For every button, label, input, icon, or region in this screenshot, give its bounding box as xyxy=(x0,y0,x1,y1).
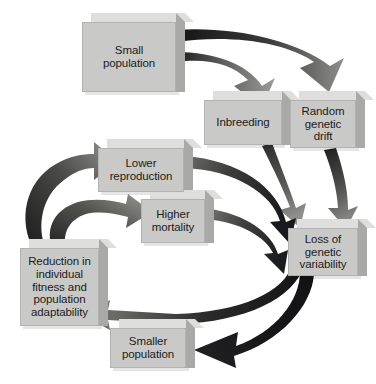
label-line: variability xyxy=(298,258,349,271)
label-line: reproduction xyxy=(108,170,175,183)
label-line: drift xyxy=(300,130,347,143)
label-line: genetic xyxy=(300,118,347,131)
node-loss-of-genetic-variability[interactable]: Loss of genetic variability xyxy=(288,228,358,276)
label-line: Lower xyxy=(108,157,175,170)
node-label-small-population: Small population xyxy=(82,22,176,92)
label-line: adaptability xyxy=(26,306,93,319)
node-higher-mortality[interactable]: Higher mortality xyxy=(141,199,205,243)
label-line: mortality xyxy=(150,221,197,234)
box-side-face xyxy=(184,139,193,192)
node-smaller-population[interactable]: Smaller population xyxy=(110,328,186,368)
box-side-face xyxy=(99,239,108,326)
node-label-random-genetic-drift: Random genetic drift xyxy=(290,100,356,148)
label-line: fitness and xyxy=(26,281,93,294)
node-label-lower-reproduction: Lower reproduction xyxy=(98,148,184,192)
node-small-population[interactable]: Small population xyxy=(82,22,176,92)
label-line: population xyxy=(101,57,157,70)
label-line: population xyxy=(26,293,93,306)
node-label-loss-of-genetic-variability: Loss of genetic variability xyxy=(288,228,358,276)
box-side-face xyxy=(205,190,214,243)
box-side-face xyxy=(176,13,185,92)
label-line: Reduction in xyxy=(26,255,93,268)
label-line: Inbreeding xyxy=(214,116,271,129)
node-label-higher-mortality: Higher mortality xyxy=(141,199,205,243)
node-lower-reproduction[interactable]: Lower reproduction xyxy=(98,148,184,192)
label-line: Higher xyxy=(150,208,197,221)
label-line: Loss of xyxy=(298,233,349,246)
node-label-inbreeding: Inbreeding xyxy=(204,100,282,145)
node-random-genetic-drift[interactable]: Random genetic drift xyxy=(290,100,356,148)
node-inbreeding[interactable]: Inbreeding xyxy=(204,100,282,145)
node-label-smaller-population: Smaller population xyxy=(110,328,186,368)
label-line: individual xyxy=(26,268,93,281)
box-side-face xyxy=(356,91,365,148)
label-line: Random xyxy=(300,105,347,118)
label-line: population xyxy=(120,348,176,361)
label-line: Small xyxy=(101,44,157,57)
box-side-face xyxy=(358,219,367,276)
label-line: Smaller xyxy=(120,335,176,348)
node-label-reduction-in-individual-fitness: Reduction in individual fitness and popu… xyxy=(20,248,99,326)
node-reduction-in-individual-fitness[interactable]: Reduction in individual fitness and popu… xyxy=(20,248,99,326)
label-line: genetic xyxy=(298,246,349,259)
box-side-face xyxy=(186,319,195,368)
